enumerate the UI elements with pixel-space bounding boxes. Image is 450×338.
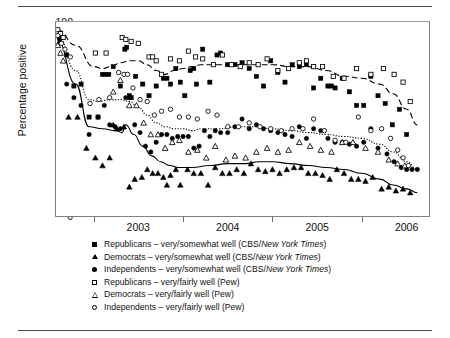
- legend-item[interactable]: Republicans – very/fairly well (Pew): [92, 276, 422, 289]
- legend-item-label: Democrats – very/fairly well (Pew): [104, 288, 234, 301]
- data-point-open-circle: [125, 72, 129, 76]
- data-point-filled-circle: [165, 132, 169, 136]
- data-point-open-square: [331, 74, 335, 78]
- data-point-filled-circle: [392, 159, 396, 163]
- legend-item[interactable]: Republicans – very/somewhat well (CBS/Ne…: [92, 238, 422, 251]
- data-point-filled-triangle: [93, 155, 99, 160]
- data-point-filled-square: [118, 84, 122, 88]
- data-point-filled-square: [111, 65, 115, 69]
- legend-item-label: Independents – very/somewhat well (CBS/N…: [104, 263, 331, 276]
- data-point-open-circle: [279, 128, 283, 132]
- legend-item[interactable]: Independents – very/fairly well (Pew): [92, 301, 422, 314]
- data-point-open-square: [401, 80, 405, 84]
- data-point-open-circle: [59, 41, 63, 45]
- legend-item[interactable]: Democrats – very/somewhat well (CBS/New …: [92, 251, 422, 264]
- legend-item[interactable]: Independents – very/somewhat well (CBS/N…: [92, 263, 422, 276]
- data-point-filled-triangle: [305, 171, 311, 176]
- data-point-open-square: [381, 66, 385, 70]
- data-point-filled-triangle: [370, 174, 376, 179]
- data-point-filled-square: [125, 45, 129, 49]
- data-point-filled-triangle: [379, 186, 385, 191]
- data-point-open-circle: [168, 107, 172, 111]
- data-point-open-square: [408, 99, 412, 103]
- data-point-filled-triangle: [348, 176, 354, 181]
- data-point-filled-circle: [362, 140, 366, 144]
- data-point-filled-circle: [133, 123, 137, 127]
- data-point-filled-square: [208, 80, 212, 84]
- data-point-filled-triangle: [327, 176, 333, 181]
- data-point-open-circle: [311, 117, 315, 121]
- data-point-filled-triangle: [144, 167, 150, 172]
- data-point-open-triangle: [186, 149, 192, 154]
- x-tick-mark: [362, 217, 363, 222]
- data-point-open-triangle: [162, 145, 168, 150]
- data-point-open-circle: [356, 115, 360, 119]
- data-point-filled-circle: [118, 127, 122, 131]
- data-point-filled-triangle: [277, 171, 283, 176]
- data-point-open-square: [154, 59, 158, 63]
- data-point-open-square: [286, 66, 290, 70]
- data-point-filled-triangle: [191, 171, 197, 176]
- data-point-open-circle: [63, 47, 67, 51]
- data-point-open-circle: [388, 136, 392, 140]
- data-point-filled-circle: [192, 146, 196, 150]
- data-point-open-square: [304, 59, 308, 63]
- data-point-open-square: [342, 76, 346, 80]
- legend-item-label: Republicans – very/fairly well (Pew): [104, 276, 240, 289]
- data-point-filled-square: [362, 103, 366, 107]
- data-point-open-circle: [177, 115, 181, 119]
- data-point-open-circle: [145, 99, 149, 103]
- data-point-open-square: [265, 57, 269, 61]
- data-point-open-circle: [236, 125, 240, 129]
- open-square-icon: [92, 280, 103, 285]
- data-point-filled-triangle: [363, 178, 369, 183]
- data-point-filled-square: [319, 76, 323, 80]
- data-point-filled-square: [183, 94, 187, 98]
- data-point-filled-circle: [127, 95, 131, 99]
- data-point-filled-square: [397, 107, 401, 111]
- data-point-filled-circle: [410, 167, 414, 171]
- data-point-open-triangle: [275, 149, 281, 154]
- filled-square-icon: [92, 242, 103, 247]
- data-point-open-circle: [56, 33, 60, 37]
- x-tick-mark: [94, 217, 95, 222]
- data-point-open-square: [211, 63, 215, 67]
- data-point-filled-circle: [138, 130, 142, 134]
- data-point-filled-square: [283, 80, 287, 84]
- data-point-filled-circle: [290, 134, 294, 138]
- filled-triangle-icon: [92, 254, 103, 259]
- x-tick-label: 2003: [108, 221, 168, 233]
- data-point-open-square: [168, 57, 172, 61]
- data-point-filled-square: [174, 66, 178, 70]
- data-point-filled-square: [79, 82, 83, 86]
- data-point-filled-triangle: [150, 171, 156, 176]
- data-point-filled-square: [141, 82, 145, 86]
- data-point-open-circle: [333, 138, 337, 142]
- data-point-filled-triangle: [234, 167, 240, 172]
- data-point-open-square: [186, 49, 190, 53]
- data-point-filled-circle: [107, 123, 111, 127]
- filled-circle-icon: [92, 267, 103, 272]
- data-point-filled-triangle: [227, 171, 233, 176]
- data-point-filled-triangle: [313, 171, 319, 176]
- data-point-open-square: [61, 35, 65, 39]
- data-point-filled-circle: [65, 82, 69, 86]
- data-point-filled-square: [247, 66, 251, 70]
- data-point-filled-square: [147, 94, 151, 98]
- chart-svg: [56, 22, 429, 216]
- data-point-filled-circle: [326, 136, 330, 140]
- data-point-open-square: [129, 39, 133, 43]
- data-point-open-circle: [195, 117, 199, 121]
- legend-item[interactable]: Democrats – very/fairly well (Pew): [92, 288, 422, 301]
- data-point-filled-square: [347, 90, 351, 94]
- data-point-filled-circle: [79, 103, 83, 107]
- data-point-open-circle: [97, 97, 101, 101]
- chart-legend: Republicans – very/somewhat well (CBS/Ne…: [92, 238, 422, 314]
- data-point-open-circle: [159, 109, 163, 113]
- data-point-filled-square: [312, 86, 316, 90]
- x-tick-label: 2006: [377, 221, 437, 233]
- data-point-open-square: [104, 51, 108, 55]
- data-point-open-circle: [186, 115, 190, 119]
- data-point-open-square: [312, 65, 316, 69]
- data-point-filled-circle: [218, 130, 222, 134]
